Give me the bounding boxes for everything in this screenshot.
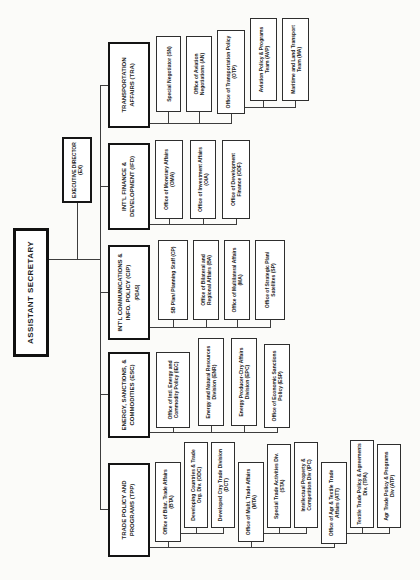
org-box-ipc: Intellectual Property & Competition Div … <box>294 442 318 528</box>
org-box-oia: Office of Investment Affairs (OIA) <box>190 140 216 219</box>
org-box-sp: Office of Strategic Plan/ Satellites (SP… <box>255 240 285 320</box>
connector <box>199 112 200 124</box>
connector <box>334 544 335 548</box>
connector <box>347 533 389 534</box>
org-box-dct: Developed Ctry Trade Division (DCT) <box>211 442 235 528</box>
org-box-tpa: Textile Trade Policy & Agreements Div. (… <box>350 440 374 528</box>
org-box-ba: Office of Bilateral and Regional Affairs… <box>193 240 219 320</box>
org-box-tra-header: TRANSPORTATION AFFAIRS (TRA) <box>108 42 150 128</box>
org-box-avp: Aviation Policy & Programs Team (AVP) <box>250 18 277 101</box>
connector <box>277 428 278 433</box>
connector <box>77 203 78 260</box>
connector <box>236 219 237 225</box>
org-box-esp: Office of Economic Sanctions Policy (ESP… <box>264 344 290 428</box>
connector <box>244 426 245 433</box>
org-box-otp: Office of Transportation Policy (OTP) <box>217 30 245 114</box>
org-box-sn: Special Negotiator (SN) <box>156 36 181 112</box>
connector <box>150 432 277 433</box>
cip-header-pdas: (PDAS) <box>135 285 141 301</box>
org-box-an: Office of Aviation Negotiations (AN) <box>186 36 212 112</box>
connector <box>168 542 169 548</box>
connector <box>206 320 207 328</box>
connector <box>100 394 108 395</box>
org-box-mta: Office of Multi. Trade Affairs (MTA) <box>238 462 264 542</box>
connector <box>203 219 204 225</box>
connector <box>263 101 264 108</box>
connector <box>173 428 174 433</box>
connector <box>362 528 363 534</box>
connector <box>231 114 232 124</box>
org-box-odf: Office of Development Finance (ODF) <box>222 140 250 219</box>
connector <box>49 259 100 260</box>
org-box-cp: SB Plan/ Planning Staff (CP) <box>158 240 188 320</box>
connector <box>100 509 108 510</box>
connector <box>295 101 296 108</box>
org-box-ifd-header: INT'L FINANCE & DEVELOPMENT (IFD) <box>108 143 150 230</box>
connector <box>100 186 108 187</box>
connector <box>264 533 306 534</box>
connector <box>169 219 170 225</box>
org-box-atp: Agr Trade Policy & Programs Div (ATP) <box>377 444 401 528</box>
connector <box>100 292 108 293</box>
org-box-sta: Special Trade Activities Div. (STA) <box>267 444 291 528</box>
org-box-cip-header: INT'L COMMUNICATIONS & INFO. POLICY (CIP… <box>108 245 150 340</box>
connector <box>181 533 223 534</box>
org-box-esc-header: ENERGY, SANCTIONS, & COMMODITIES (ESC) <box>108 352 150 438</box>
org-box-ma: Office of Multilateral Affairs (MA) <box>224 240 250 320</box>
org-box-mlt: Maritime and Land Transport Team (MA) <box>282 18 309 101</box>
org-box-epc: Energy Producer-Ctry Affairs Division (E… <box>231 338 257 426</box>
connector <box>270 320 271 328</box>
org-box-att: Office of Agr & Textile Trade Affairs (A… <box>321 462 347 544</box>
executive-director-code: (EX) <box>77 165 83 175</box>
org-box-executive-director: EXECUTIVE DIRECTOR (EX) <box>62 137 92 203</box>
connector <box>237 320 238 328</box>
connector <box>100 85 108 86</box>
connector <box>168 112 169 124</box>
connector <box>211 426 212 433</box>
org-box-oma: Office of Monetary Affairs (OMA) <box>155 140 183 219</box>
connector <box>150 123 231 124</box>
connector <box>150 224 236 225</box>
connector <box>279 528 280 534</box>
connector <box>223 528 224 534</box>
connector <box>150 327 270 328</box>
org-box-iec: Office of Intl. Energy and Commodity Pol… <box>156 352 190 428</box>
cip-header-title: INT'L COMMUNICATIONS & INFO. POLICY (CIP… <box>117 249 133 336</box>
org-box-tpp-header: TRADE POLICY AND PROGRAMS (TPP) <box>108 463 150 557</box>
connector <box>251 542 252 548</box>
scanned-org-chart-page: ASSISTANT SECRETARY EXECUTIVE DIRECTOR (… <box>0 0 420 580</box>
org-box-odc: Developing Countries & Trade Org. Div. (… <box>184 442 208 528</box>
org-box-assistant-secretary: ASSISTANT SECRETARY <box>13 228 49 357</box>
org-box-enr: Energy and Natural Resources Division (E… <box>198 338 224 426</box>
org-box-bta: Office of Bilat. Trade Affairs (BTA) <box>155 462 181 542</box>
connector <box>173 320 174 328</box>
org-chart-canvas: ASSISTANT SECRETARY EXECUTIVE DIRECTOR (… <box>0 0 420 580</box>
connector <box>150 547 334 548</box>
connector <box>100 85 101 510</box>
connector <box>245 107 295 108</box>
connector <box>306 528 307 534</box>
connector <box>389 528 390 534</box>
connector <box>196 528 197 534</box>
